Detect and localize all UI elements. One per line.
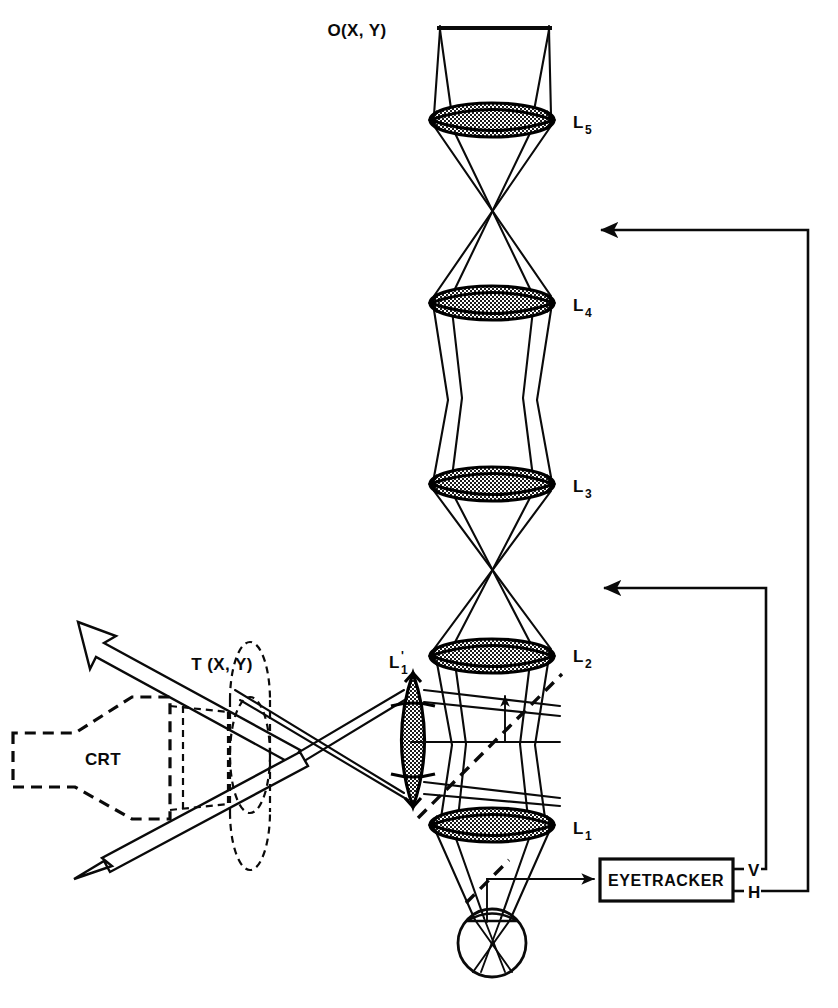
lens-label-L4-base: L <box>573 296 584 315</box>
hollow-beam-lower <box>74 752 308 879</box>
lens-label-L1-sub: 1 <box>585 829 592 843</box>
feedback-horizontal <box>601 230 808 891</box>
lens-label-L2: L 2 <box>573 647 592 671</box>
lens-label-L3: L 3 <box>573 477 592 501</box>
lens-label-L3-base: L <box>573 477 584 496</box>
target-plane-label: T (X, Y) <box>191 655 252 674</box>
lens-label-L1-base: L <box>573 819 584 838</box>
rays-L1-to-eye <box>436 832 549 972</box>
lens-label-L2-sub: 2 <box>585 657 592 671</box>
optical-diagram-root: EYETRACKER V H O(X, Y) CRT T (X, Y) L 5 … <box>0 0 838 1008</box>
eyetracker-box[interactable]: EYETRACKER <box>600 859 733 901</box>
lens-label-L5-base: L <box>573 113 584 132</box>
lens-L2 <box>430 639 554 673</box>
object-plane-label: O(X, Y) <box>327 21 386 40</box>
rays-L3-to-L2 <box>434 491 551 649</box>
eyetracker-label: EYETRACKER <box>608 872 724 889</box>
lens-label-L3-sub: 3 <box>585 487 592 501</box>
lens-label-L4: L 4 <box>573 296 592 320</box>
lens-label-L5: L 5 <box>573 113 592 137</box>
lens-label-L5-sub: 5 <box>585 123 592 137</box>
hollow-beam-upper <box>78 622 300 764</box>
lens-L5 <box>430 103 554 137</box>
output-label-h: H <box>748 883 760 902</box>
output-label-v: V <box>748 861 760 880</box>
lens-L1 <box>430 808 554 842</box>
crt-label: CRT <box>85 750 121 769</box>
optics-diagram-svg: EYETRACKER V H O(X, Y) CRT T (X, Y) L 5 … <box>0 0 838 1008</box>
lens-L4 <box>430 286 554 320</box>
target-plane-T <box>230 642 270 870</box>
lens-label-L1prime-prime: ' <box>401 649 404 663</box>
rays-L5-to-L4 <box>434 126 551 296</box>
eyetracker-outputs: V H <box>733 861 760 902</box>
lens-label-L1prime-base: L <box>389 653 400 672</box>
lens-label-L2-base: L <box>573 647 584 666</box>
lens-L3 <box>430 467 554 501</box>
lens-label-L4-sub: 4 <box>585 306 592 320</box>
object-plane-group <box>437 26 552 34</box>
feedback-vertical <box>604 588 766 869</box>
lens-label-L1-prime: L ' 1 <box>389 649 408 677</box>
lens-label-L1prime-sub: 1 <box>401 663 408 677</box>
rays-L4-to-L3 <box>434 310 551 477</box>
lens-label-L1: L 1 <box>573 819 592 843</box>
